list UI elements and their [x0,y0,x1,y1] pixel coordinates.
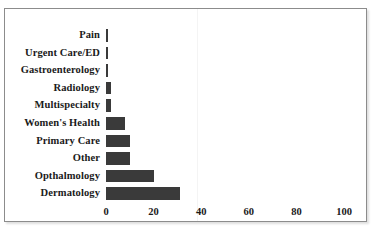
bar[interactable] [106,170,154,183]
category-label: Gastroenterology [21,62,100,78]
bar[interactable] [106,152,130,165]
bar[interactable] [106,29,108,42]
bar-row: Opthalmology [5,168,366,184]
chart-figure: PainUrgent Care/EDGastroenterologyRadiol… [4,8,367,222]
bar-track [106,185,358,201]
category-label: Radiology [54,80,100,96]
category-label: Urgent Care/ED [25,45,100,61]
bar-track [106,115,358,131]
bar-row: Gastroenterology [5,62,366,78]
bar-track [106,168,358,184]
bar-row: Women's Health [5,115,366,131]
x-tick-label: 20 [148,205,159,219]
bar-track [106,133,358,149]
category-label: Opthalmology [35,168,100,184]
category-label: Women's Health [24,115,100,131]
x-tick-label: 0 [103,205,108,219]
bar[interactable] [106,117,125,130]
x-tick-label: 80 [291,205,302,219]
bar-track [106,27,358,43]
category-label: Primary Care [36,133,100,149]
bar-row: Multispecialty [5,97,366,113]
category-label: Other [73,150,100,166]
bar-row: Radiology [5,80,366,96]
bar[interactable] [106,47,108,60]
bar-row: Other [5,150,366,166]
bar-track [106,62,358,78]
bar-track [106,45,358,61]
x-tick-label: 100 [336,205,352,219]
bar[interactable] [106,82,111,95]
scan-seam [197,9,198,221]
bar[interactable] [106,187,180,200]
category-label: Pain [79,27,100,43]
bar-row: Primary Care [5,133,366,149]
plot-area: PainUrgent Care/EDGastroenterologyRadiol… [5,9,366,221]
bar-track [106,150,358,166]
bar-row: Pain [5,27,366,43]
x-axis-ticks: 020406080100 [5,205,366,221]
bar[interactable] [106,64,108,77]
bar[interactable] [106,99,111,112]
category-label: Multispecialty [34,97,100,113]
category-label: Dermatology [41,185,100,201]
bar-track [106,80,358,96]
x-tick-label: 60 [244,205,255,219]
bar-row: Dermatology [5,185,366,201]
bar-row: Urgent Care/ED [5,45,366,61]
bar[interactable] [106,135,130,148]
bar-track [106,97,358,113]
